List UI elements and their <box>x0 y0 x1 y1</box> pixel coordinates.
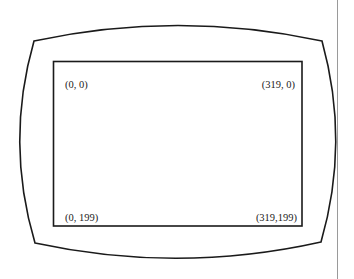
coordinate-label-top-left: (0, 0) <box>65 80 88 91</box>
coordinate-label-bottom-left: (0, 199) <box>65 213 98 224</box>
coordinate-label-bottom-right: (319,199) <box>256 213 297 224</box>
coordinate-label-top-right: (319, 0) <box>262 80 295 91</box>
diagram-canvas <box>0 0 354 279</box>
